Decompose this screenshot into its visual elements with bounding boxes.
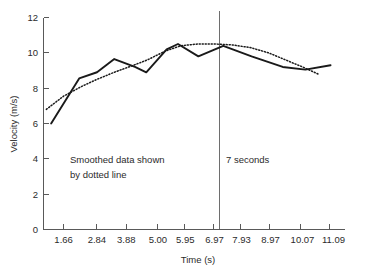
x-tick-label-5: 5.95 bbox=[176, 234, 195, 245]
smoothed-note-line-2: by dotted line bbox=[70, 169, 127, 180]
velocity-time-chart: 0 2 4 6 8 10 12 1.66 2.84 3.88 5.00 5.95… bbox=[0, 0, 367, 273]
x-tick-label-9: 10.07 bbox=[291, 234, 315, 245]
y-tick-label-10: 10 bbox=[27, 47, 38, 58]
y-tick-label-2: 2 bbox=[33, 189, 38, 200]
y-tick-label-8: 8 bbox=[33, 83, 38, 94]
x-tick-label-8: 8.97 bbox=[261, 234, 280, 245]
x-tick-label-7: 7.93 bbox=[232, 234, 251, 245]
y-tick-label-12: 12 bbox=[27, 12, 38, 23]
chart-canvas: 0 2 4 6 8 10 12 1.66 2.84 3.88 5.00 5.95… bbox=[0, 0, 367, 273]
y-tick-label-4: 4 bbox=[33, 153, 38, 164]
x-tick-label-4: 5.00 bbox=[149, 234, 168, 245]
x-tick-label-2: 2.84 bbox=[88, 234, 107, 245]
smoothed-note-line-1: Smoothed data shown bbox=[70, 154, 165, 165]
y-axis-title: Velocity (m/s) bbox=[8, 95, 19, 152]
y-axis-ticks bbox=[44, 18, 50, 230]
y-tick-label-0: 0 bbox=[33, 224, 38, 235]
x-axis-title: Time (s) bbox=[181, 254, 215, 265]
x-tick-label-1: 1.66 bbox=[54, 234, 73, 245]
x-tick-label-10: 11.09 bbox=[322, 234, 345, 245]
x-axis-ticks bbox=[64, 224, 330, 230]
series-raw-solid bbox=[51, 44, 330, 124]
y-tick-label-6: 6 bbox=[33, 118, 38, 129]
x-tick-label-3: 3.88 bbox=[117, 234, 136, 245]
seven-seconds-label: 7 seconds bbox=[226, 154, 270, 165]
x-tick-label-6: 6.97 bbox=[205, 234, 224, 245]
